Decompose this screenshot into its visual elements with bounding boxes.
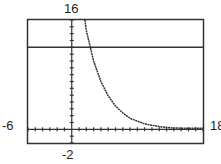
window-frame: [28, 20, 204, 144]
decay-curve: [85, 20, 203, 128]
graph-screen: [0, 0, 221, 164]
axes: [28, 20, 203, 143]
